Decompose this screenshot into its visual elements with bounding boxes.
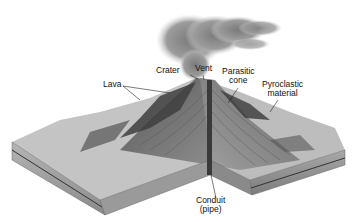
label-crater: Crater <box>156 66 180 75</box>
volcano-illustration <box>0 0 359 222</box>
volcano-diagram: Crater Vent Lava Parasitic cone Pyroclas… <box>0 0 359 222</box>
label-vent: Vent <box>195 64 212 73</box>
label-pyroclastic-material: Pyroclastic material <box>262 80 303 98</box>
label-parasitic-cone: Parasitic cone <box>222 67 255 85</box>
conduit-pipe <box>207 80 212 175</box>
label-conduit-pipe: Conduit (pipe) <box>196 196 225 214</box>
label-lava: Lava <box>103 80 121 89</box>
